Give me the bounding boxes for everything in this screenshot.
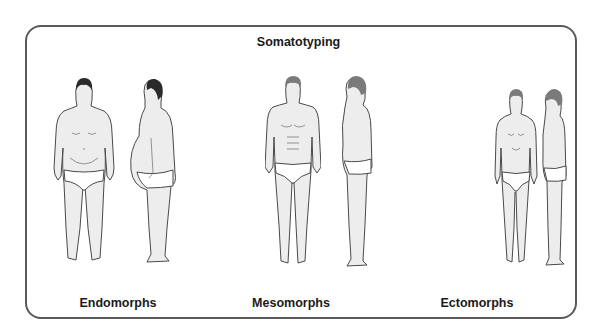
- label-endomorphs: Endomorphs: [48, 296, 188, 310]
- diagram-title: Somatotyping: [0, 35, 597, 49]
- mesomorph-side-figure: [335, 75, 379, 270]
- ectomorph-side-figure: [538, 88, 570, 268]
- mesomorph-front-figure: [265, 75, 321, 270]
- endomorph-side-figure: [125, 78, 183, 268]
- endomorph-front-figure: [52, 78, 116, 268]
- label-ectomorphs: Ectomorphs: [407, 296, 547, 310]
- label-mesomorphs: Mesomorphs: [221, 296, 361, 310]
- ectomorph-front-figure: [494, 88, 538, 268]
